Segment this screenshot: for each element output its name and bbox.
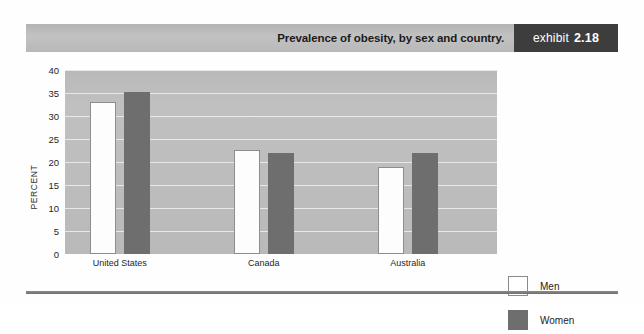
legend-label: Women [540,315,574,326]
plot-area [65,70,497,254]
bar-australia-women [412,153,438,254]
y-axis-tick-label: 15 [7,180,59,191]
gray-square-icon [508,310,528,330]
exhibit-number: 2.18 [574,31,599,45]
bar-canada-men [234,150,260,254]
y-axis-tick-label: 20 [7,157,59,168]
legend-label: Men [540,281,559,292]
exhibit-label: exhibit [533,31,569,45]
bar-chart: PERCENT 4035302520151050 United StatesCa… [0,62,644,277]
y-axis-tick-label: 0 [7,249,59,260]
exhibit-header-bar: Prevalence of obesity, by sex and countr… [26,24,618,52]
x-axis-category-labels: United StatesCanadaAustralia [65,258,497,274]
exhibit-badge: exhibit 2.18 [514,24,618,52]
y-axis-tick-label: 30 [7,111,59,122]
x-axis-label-united-states: United States [93,258,147,268]
footer-rule [26,291,618,294]
y-axis-tick-label: 40 [7,65,59,76]
y-axis-tick-label: 25 [7,134,59,145]
legend-item-men: Men [508,269,628,303]
x-axis-label-canada: Canada [248,258,280,268]
bar-canada-women [268,153,294,254]
y-axis-tick-label: 10 [7,203,59,214]
legend-item-women: Women [508,303,628,334]
bar-australia-men [378,167,404,254]
bar-united-states-women [124,92,150,254]
chart-legend: MenWomen [508,269,628,334]
gridline [65,70,497,71]
bar-united-states-men [90,102,116,254]
y-axis-tick-label: 5 [7,226,59,237]
x-axis-label-australia: Australia [390,258,425,268]
y-axis-tick-label: 35 [7,88,59,99]
y-axis-ticks: 4035302520151050 [0,70,59,254]
page-title: Prevalence of obesity, by sex and countr… [277,32,514,44]
